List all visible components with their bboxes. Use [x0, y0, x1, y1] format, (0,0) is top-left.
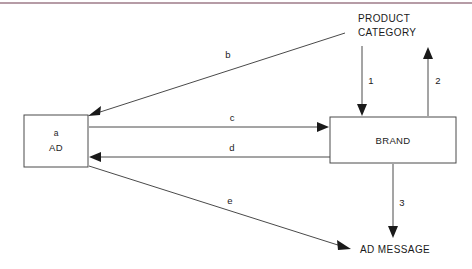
edge-e-line[interactable] [89, 166, 341, 246]
edge-2-arrowhead [423, 47, 433, 59]
edge-2-label: 2 [435, 75, 440, 86]
node-product-category-line1: PRODUCT [358, 13, 410, 24]
node-product-category-line2: CATEGORY [358, 27, 416, 38]
edge-d-label: d [229, 142, 234, 153]
diagram-svg: a AD BRAND PRODUCT CATEGORY AD MESSAGE b… [0, 0, 472, 269]
edge-c-label: c [230, 112, 235, 123]
edge-c-arrowhead [317, 122, 329, 132]
edge-e-arrowhead [337, 240, 351, 250]
edge-e-label: e [227, 195, 232, 206]
edge-3-arrowhead [388, 226, 398, 238]
edge-3-label: 3 [399, 197, 404, 208]
edge-1-label: 1 [368, 75, 373, 86]
edge-1-arrowhead [357, 104, 367, 116]
node-ad-label: AD [49, 142, 63, 153]
edge-b-line[interactable] [97, 33, 345, 113]
node-ad-box[interactable] [24, 115, 88, 167]
edge-d-arrowhead [89, 152, 101, 162]
edge-b-arrowhead [88, 106, 101, 116]
node-ad-tag: a [54, 128, 59, 138]
node-ad-message-label: AD MESSAGE [360, 244, 430, 255]
diagram-canvas: a AD BRAND PRODUCT CATEGORY AD MESSAGE b… [0, 0, 472, 269]
edge-b-label: b [225, 49, 230, 60]
node-brand-label: BRAND [376, 135, 411, 146]
